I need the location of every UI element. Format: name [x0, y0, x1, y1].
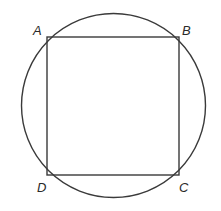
square-abcd — [47, 37, 179, 175]
vertex-label-b: B — [182, 23, 191, 38]
vertex-label-c: C — [179, 180, 189, 195]
vertex-label-a: A — [32, 23, 42, 38]
circumscribed-circle — [22, 14, 206, 198]
inscribed-square-diagram: A B C D — [0, 0, 221, 211]
vertex-label-d: D — [37, 180, 46, 195]
